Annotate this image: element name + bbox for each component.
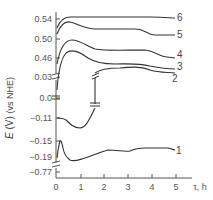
curve-6: [57, 17, 175, 28]
curve-1: [57, 141, 175, 161]
x-tick-label: 5: [173, 182, 178, 192]
curve-label-4: 4: [177, 49, 183, 60]
x-tick-labels: 0 1 2 3 4 5: [53, 182, 178, 192]
chart: E (V) (vs NHE) 0.54 0.50 0.46 0.03 0.0 −…: [0, 0, 213, 200]
x-tick-label: 2: [101, 182, 106, 192]
x-tick-label: 3: [125, 182, 130, 192]
curve-label-5: 5: [177, 29, 183, 40]
curves: [57, 17, 175, 161]
y-tick-label: 0.46: [34, 53, 52, 63]
y-tick-label: 0.50: [34, 34, 52, 44]
curve-label-6: 6: [177, 12, 183, 23]
y-tick-label: −0.11: [30, 113, 52, 123]
x-tick-label: 1: [78, 182, 83, 192]
y-tick-label: −0.15: [29, 136, 52, 146]
curve-3: [57, 51, 175, 90]
y-tick-label: −0.77: [29, 167, 52, 177]
curve-labels: 6 5 4 3 2 1: [172, 12, 183, 156]
y-tick-label: 0.0: [39, 93, 52, 103]
y-tick-label: 0.54: [34, 14, 52, 24]
curve-label-1: 1: [176, 145, 182, 156]
y-tick-label: 0.03: [34, 72, 52, 82]
curve-breaks: [52, 73, 100, 106]
curve-4: [57, 40, 175, 64]
y-tick-labels: 0.54 0.50 0.46 0.03 0.0 −0.11 −0.15 −0.1…: [29, 14, 52, 177]
curve-label-3: 3: [177, 61, 183, 72]
curve-label-2: 2: [172, 73, 178, 84]
curve-5: [57, 22, 175, 35]
y-tick-label: −0.19: [29, 152, 52, 162]
x-axis-title: τ, h: [193, 182, 207, 192]
x-tick-label: 4: [149, 182, 154, 192]
x-tick-label: 0: [53, 182, 58, 192]
curve-2-lower: [57, 108, 95, 128]
y-axis-title: E (V) (vs NHE): [4, 77, 15, 139]
y-axis: [52, 12, 60, 178]
x-axis: [56, 174, 192, 178]
